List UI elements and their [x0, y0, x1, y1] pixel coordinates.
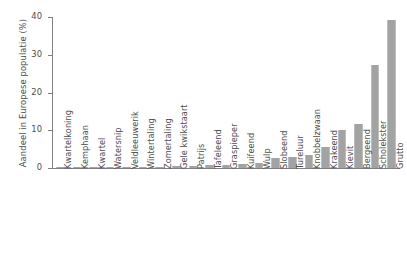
x-tick-label: Tureluur	[295, 135, 305, 169]
x-tick-label: Veldleeuwerik	[130, 111, 140, 169]
y-tick-label: 30	[2, 50, 42, 58]
x-tick-label: Graspieper	[229, 123, 239, 169]
x-tick-label: Kemphaan	[80, 125, 90, 169]
y-tick-label: 20	[2, 88, 42, 96]
x-tick-label: Grutto	[395, 142, 405, 169]
x-tick-label: Knobbelzwaan	[312, 109, 322, 169]
x-tick-label: Wintertaling	[146, 118, 156, 169]
x-tick-label: Slobeend	[279, 130, 289, 169]
x-tick-label: Kwartelkoning	[63, 110, 73, 169]
y-tick-label: 10	[2, 125, 42, 133]
x-tick-label: Kuifeend	[246, 133, 256, 169]
x-tick-label: Krakeend	[329, 130, 339, 169]
y-tick-label: 0	[2, 163, 42, 171]
x-tick-label: Scholekster	[378, 121, 388, 169]
x-tick-label: Zomertaling	[163, 118, 173, 169]
bar-chart: Aandeel in Europese populatie (%) 010203…	[0, 0, 407, 265]
x-tick-label: Tafeleend	[213, 129, 223, 169]
x-axis-tick-labels: KwartelkoningKemphaanKwartelWatersnipVel…	[52, 169, 400, 263]
x-tick-label: Kievit	[345, 146, 355, 169]
x-tick-label: Bergeend	[362, 129, 372, 169]
x-tick-label: Gele kwikstaart	[179, 104, 189, 169]
x-tick-label: Patrijs	[196, 144, 206, 169]
x-tick-label: Kwartel	[97, 138, 107, 169]
x-tick-label: Wulp	[262, 148, 272, 169]
x-tick-label: Watersnip	[113, 127, 123, 169]
y-tick-label: 40	[2, 12, 42, 20]
